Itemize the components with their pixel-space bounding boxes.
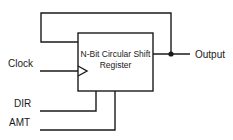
junction-dot (168, 51, 173, 56)
output-label: Output (195, 49, 225, 60)
shift-register-diagram: N-Bit Circular Shift Register Output Clo… (0, 0, 233, 140)
block-title-line2: Register (100, 60, 132, 70)
block-title-line1: N-Bit Circular Shift (81, 49, 152, 59)
clock-label: Clock (8, 58, 34, 69)
amt-label: AMT (9, 117, 30, 128)
dir-wire (40, 91, 96, 111)
dir-label: DIR (14, 98, 31, 109)
